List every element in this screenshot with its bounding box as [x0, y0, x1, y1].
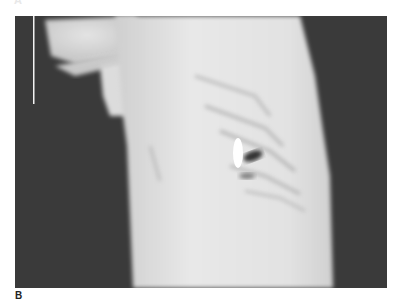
panel-label-a-cropped: A	[14, 0, 22, 6]
torso	[115, 16, 333, 288]
panel-label-b: B	[15, 290, 22, 301]
marker-line	[33, 16, 35, 104]
foreign-body	[233, 138, 243, 168]
radiograph-image	[15, 16, 387, 288]
